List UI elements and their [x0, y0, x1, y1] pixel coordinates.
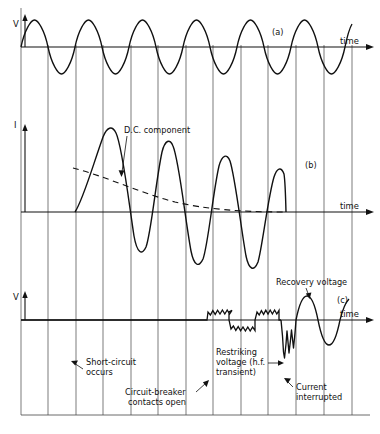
recovery-voltage-label: Recovery voltage — [276, 277, 347, 287]
contacts-open-label-line2: contacts open — [128, 397, 186, 407]
panel-label-b: (b) — [305, 160, 317, 170]
axis-label-voltage-a: V — [13, 19, 19, 29]
axis-label-current-b: I — [14, 120, 17, 130]
waveform-diagram: V time (a) I time D.C. component (b) V — [0, 0, 380, 434]
contacts-open-label-line1: Circuit-breaker — [125, 387, 186, 397]
time-label-b: time — [340, 201, 359, 211]
current-interrupted-label-line2: interrupted — [296, 392, 342, 402]
panel-label-c: (c) — [337, 295, 348, 305]
figure-root: V time (a) I time D.C. component (b) V — [0, 0, 380, 434]
time-label-a: time — [340, 36, 359, 46]
panel-label-a: (a) — [272, 27, 283, 37]
dc-component-label: D.C. component — [124, 125, 191, 135]
short-circuit-label-line1: Short-circuit — [86, 357, 137, 367]
short-circuit-label-line2: occurs — [86, 367, 113, 377]
canvas-background — [0, 0, 380, 434]
current-interrupted-label-line1: Current — [296, 382, 328, 392]
restriking-label-line2: voltage (h.f. — [216, 357, 265, 367]
restriking-label-line3: transient) — [216, 367, 256, 377]
axis-label-voltage-c: V — [13, 292, 19, 302]
restriking-label-line1: Restriking — [216, 347, 257, 357]
